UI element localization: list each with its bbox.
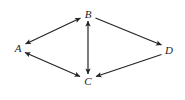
node-label-c: C (84, 76, 91, 87)
node-label-d: D (165, 45, 173, 56)
edge-a-b (26, 18, 81, 44)
node-label-a: A (15, 43, 22, 54)
graph-diagram: A B C D (0, 0, 185, 100)
edge-b-d (96, 18, 162, 45)
node-label-b: B (85, 9, 92, 20)
edge-d-c (96, 55, 162, 77)
graph-edges-canvas (0, 0, 185, 100)
edge-a-c (25, 53, 80, 77)
